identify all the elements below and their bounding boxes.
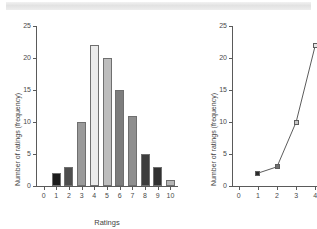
- lineplot-y-tick-label: 20: [210, 54, 227, 61]
- histogram-y-tick: [33, 154, 36, 155]
- histogram-x-tick-label: 10: [162, 192, 178, 199]
- histogram-y-tick: [33, 26, 36, 27]
- lineplot-x-tick-label: 1: [250, 192, 266, 199]
- lineplot-data-point: [294, 120, 299, 125]
- histogram-y-axis-label: Number of ratings (frequency): [14, 93, 21, 186]
- histogram-bar: [90, 45, 99, 186]
- histogram-x-tick: [82, 187, 83, 190]
- lineplot-y-tick-label: 25: [210, 22, 227, 29]
- histogram-bar: [77, 122, 86, 186]
- histogram-y-tick-label: 15: [14, 86, 31, 93]
- histogram-x-tick: [158, 187, 159, 190]
- lineplot-y-axis-label: Number of ratings (frequency): [210, 93, 217, 186]
- histogram-y-tick: [33, 186, 36, 187]
- histogram-x-tick: [69, 187, 70, 190]
- lineplot-x-tick: [315, 187, 316, 190]
- lineplot-y-tick-label: 15: [210, 86, 227, 93]
- histogram-x-tick: [56, 187, 57, 190]
- lineplot-x-tick-label: 4: [307, 192, 317, 199]
- histogram-y-tick: [33, 90, 36, 91]
- lineplot-x-tick: [296, 187, 297, 190]
- lineplot-x-axis: [232, 186, 317, 187]
- histogram-y-tick: [33, 122, 36, 123]
- lineplot-series-path: [232, 26, 317, 186]
- histogram-bar: [115, 90, 124, 186]
- histogram-x-tick: [120, 187, 121, 190]
- figure-page: 0510152025012345678910 Ratings Number of…: [0, 0, 317, 229]
- lineplot-x-tick-label: 2: [269, 192, 285, 199]
- lineplot-x-tick-label: 3: [288, 192, 304, 199]
- lineplot-figure: 051015202501234 Number of ratings (frequ…: [196, 14, 317, 229]
- top-banner-strip: [6, 2, 311, 10]
- histogram-x-tick: [44, 187, 45, 190]
- histogram-figure: 0510152025012345678910 Ratings Number of…: [0, 14, 192, 229]
- lineplot-data-point: [275, 164, 280, 169]
- lineplot-x-tick: [239, 187, 240, 190]
- histogram-bar: [128, 116, 137, 186]
- lineplot-data-point: [313, 43, 317, 48]
- lineplot-plot-area: 051015202501234: [232, 26, 317, 186]
- lineplot-x-tick: [277, 187, 278, 190]
- histogram-bar: [166, 180, 175, 186]
- lineplot-x-tick-label: 0: [231, 192, 247, 199]
- histogram-y-tick-label: 25: [14, 22, 31, 29]
- histogram-bar: [64, 167, 73, 186]
- histogram-y-tick: [33, 58, 36, 59]
- histogram-bar: [153, 167, 162, 186]
- histogram-y-tick-label: 20: [14, 54, 31, 61]
- histogram-x-tick: [107, 187, 108, 190]
- histogram-bar: [52, 173, 61, 186]
- histogram-plot-area: 0510152025012345678910: [36, 26, 178, 186]
- lineplot-y-tick: [229, 186, 232, 187]
- histogram-x-tick: [170, 187, 171, 190]
- histogram-x-tick: [145, 187, 146, 190]
- lineplot-data-point: [255, 171, 260, 176]
- lineplot-x-tick: [258, 187, 259, 190]
- histogram-bar: [141, 154, 150, 186]
- histogram-x-tick: [94, 187, 95, 190]
- histogram-x-axis-label: Ratings: [36, 218, 178, 227]
- histogram-y-axis: [36, 26, 37, 186]
- histogram-bar: [103, 58, 112, 186]
- histogram-x-tick: [132, 187, 133, 190]
